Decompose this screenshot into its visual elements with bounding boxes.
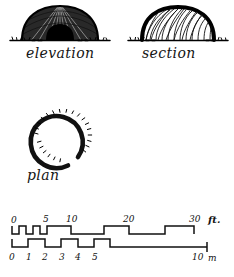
meters-tick-0: 0: [9, 252, 15, 262]
elevation-drawing: [8, 2, 112, 48]
feet-unit-label: ft.: [207, 214, 220, 225]
meters-tick-2: 2: [41, 252, 48, 262]
feet-tick-20: 20: [122, 214, 135, 224]
meters-tick-1: 1: [26, 252, 32, 262]
caption-elevation: elevation: [26, 45, 94, 61]
caption-plan: plan: [27, 167, 59, 183]
meters-tick-4: 4: [74, 252, 81, 262]
scale-feet-bar: [12, 226, 194, 234]
plan-drawing: [22, 108, 106, 170]
figure-elevation: [8, 2, 112, 48]
meters-tick-10: 10: [192, 252, 204, 262]
section-drawing: [126, 2, 230, 48]
feet-tick-30: 30: [189, 214, 201, 224]
figure-plan: [22, 108, 106, 170]
meters-tick-5: 5: [92, 252, 98, 262]
meters-tick-3: 3: [59, 252, 65, 262]
feet-tick-5: 5: [43, 214, 49, 224]
meters-unit-label: m: [208, 253, 217, 263]
figure-scale-bar: 0 5 10 20 30 ft. 0 1 2 3 4: [2, 212, 232, 274]
figure-section: [126, 2, 230, 48]
drawing-sheet: elevation: [0, 0, 234, 277]
plan-circle: [31, 109, 92, 168]
scale-bar-drawing: 0 5 10 20 30 ft. 0 1 2 3 4: [2, 212, 232, 274]
feet-tick-0: 0: [11, 215, 17, 225]
scale-meters-labels: 0 1 2 3 4 5 10 m: [9, 252, 217, 263]
scale-meters-bar: [12, 239, 207, 252]
caption-section: section: [142, 45, 196, 61]
scale-feet-labels: 0 5 10 20 30 ft.: [11, 214, 220, 225]
feet-tick-10: 10: [66, 214, 78, 224]
